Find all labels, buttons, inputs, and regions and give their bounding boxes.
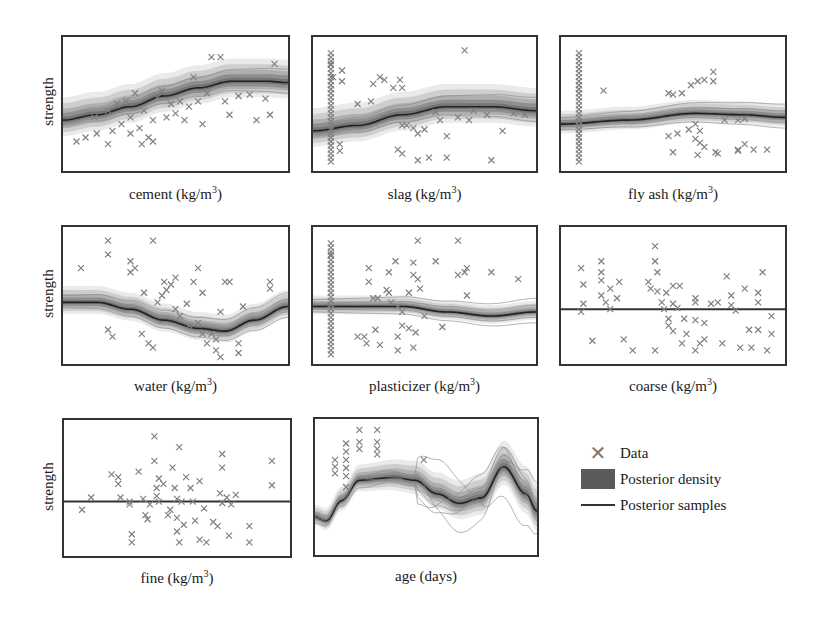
data-point-marker [110, 128, 116, 134]
data-point-marker [174, 515, 180, 521]
legend: ✕ Data Posterior density Posterior sampl… [580, 440, 726, 518]
data-point-marker [701, 77, 707, 83]
data-point-marker [269, 458, 275, 464]
data-point-marker [578, 265, 584, 271]
data-point-marker [666, 133, 672, 139]
data-point-marker [226, 533, 232, 539]
data-point-marker [337, 148, 343, 154]
data-point-marker [742, 286, 748, 292]
data-point-marker [598, 258, 604, 264]
data-point-marker [464, 293, 470, 299]
data-point-marker [356, 427, 362, 433]
data-point-marker [343, 465, 349, 471]
data-point-marker [191, 279, 197, 285]
data-point-marker [433, 258, 439, 264]
data-point-marker [236, 350, 242, 356]
data-point-marker [614, 295, 620, 301]
plot-panel-cement [61, 35, 290, 173]
data-point-marker [197, 478, 203, 484]
data-point-marker [343, 449, 349, 455]
data-point-marker [701, 144, 707, 150]
data-point-marker [421, 457, 427, 463]
data-point-marker [755, 299, 761, 305]
plot-panel-flyash [559, 35, 787, 173]
data-point-marker [219, 465, 225, 471]
data-point-marker [136, 469, 142, 475]
data-point-marker [246, 539, 252, 545]
x-axis-label-fine: fine (kg/m3) [62, 568, 292, 587]
data-point-marker [254, 117, 260, 123]
data-point-marker [598, 293, 604, 299]
data-point-marker [422, 126, 428, 132]
data-point-marker [204, 340, 210, 346]
data-point-marker [713, 149, 719, 155]
data-point-marker [746, 327, 752, 333]
data-point-marker [328, 351, 334, 357]
line-icon [580, 504, 616, 506]
data-point-marker [150, 238, 156, 244]
data-point-marker [213, 347, 219, 353]
data-point-marker [172, 485, 178, 491]
data-point-marker [377, 342, 383, 348]
data-point-marker [201, 505, 207, 511]
data-point-marker [343, 473, 349, 479]
data-point-marker [670, 328, 676, 334]
plot-panel-plasticizer [311, 225, 538, 366]
data-point-marker [332, 457, 338, 463]
data-point-marker [415, 276, 421, 282]
data-point-marker [681, 316, 687, 322]
data-point-marker [410, 260, 416, 266]
data-point-marker [645, 279, 651, 285]
data-point-marker [128, 130, 134, 136]
data-point-marker [218, 354, 224, 360]
data-point-marker [374, 451, 380, 457]
data-point-marker [110, 334, 116, 340]
plot-area [313, 37, 536, 171]
data-point-marker [670, 283, 676, 289]
data-point-marker [246, 523, 252, 529]
data-point-marker [710, 69, 716, 75]
data-point-marker [515, 276, 521, 282]
data-point-marker [393, 258, 399, 264]
data-point-marker [692, 347, 698, 353]
x-axis-label-cement: cement (kg/m3) [61, 184, 290, 203]
data-point-marker [748, 345, 754, 351]
data-point-marker [165, 512, 171, 518]
data-point-marker [648, 286, 654, 292]
data-point-marker [710, 78, 716, 84]
data-point-marker [227, 279, 233, 285]
data-point-marker [715, 299, 721, 305]
y-axis-label-row1: strength [40, 42, 57, 162]
data-point-marker [168, 282, 174, 288]
data-point-marker [370, 81, 376, 87]
data-point-marker [737, 345, 743, 351]
legend-item-density: Posterior density [580, 466, 726, 492]
data-point-marker [395, 334, 401, 340]
data-point-marker [343, 457, 349, 463]
data-point-marker [366, 265, 372, 271]
data-point-marker [195, 265, 201, 271]
x-axis-label-water: water (kg/m3) [61, 376, 290, 395]
data-point-marker [695, 152, 701, 158]
data-point-marker [724, 273, 730, 279]
data-point-marker [339, 78, 345, 84]
data-point-marker [692, 317, 698, 323]
data-point-marker [701, 320, 707, 326]
data-point-marker [200, 121, 206, 127]
data-point-marker [386, 269, 392, 275]
data-point-marker [769, 331, 775, 337]
data-point-marker [233, 492, 239, 498]
data-point-marker [410, 345, 416, 351]
legend-item-data: ✕ Data [580, 440, 726, 466]
data-point-marker [399, 151, 405, 157]
data-point-marker [355, 334, 361, 340]
data-point-marker [197, 537, 203, 543]
data-point-marker [764, 347, 770, 353]
data-point-marker [176, 444, 182, 450]
data-point-marker [500, 128, 506, 134]
data-point-marker [332, 464, 338, 470]
data-point-marker [154, 493, 160, 499]
x-axis-label-age: age (days) [313, 568, 539, 585]
plot-area [313, 227, 536, 364]
data-point-marker [374, 439, 380, 445]
